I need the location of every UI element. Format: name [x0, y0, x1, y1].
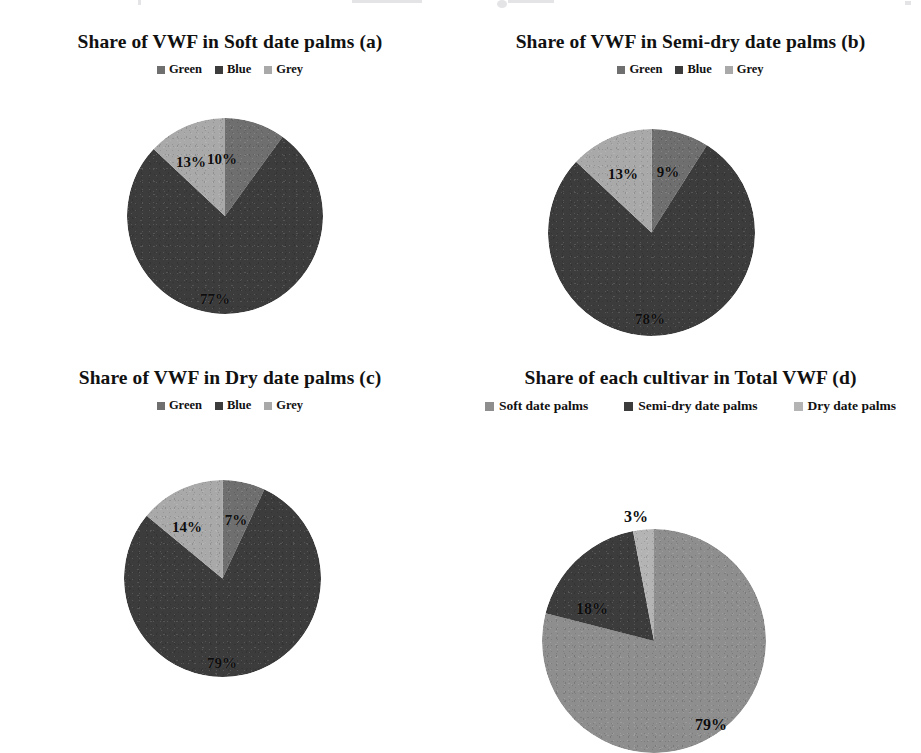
chart-title-a: Share of VWF in Soft date palms (a): [0, 32, 460, 52]
legend-label-blue: Blue: [687, 63, 711, 76]
legend-item-blue-c[interactable]: Blue: [215, 399, 251, 412]
legend-swatch-semi-dry-date-palms-icon: [624, 402, 633, 411]
chart-title-c: Share of VWF in Dry date palms (c): [0, 368, 460, 388]
chart-legend-d: Soft date palms Semi-dry date palms Dry …: [460, 399, 921, 413]
legend-label-grey: Grey: [276, 63, 303, 76]
pie-chart-d[interactable]: [542, 529, 766, 753]
legend-item-green-c[interactable]: Green: [157, 399, 202, 412]
legend-label-semi-dry-date-palms: Semi-dry date palms: [638, 399, 757, 413]
legend-label-green: Green: [629, 63, 662, 76]
pie-svg-d: [542, 529, 766, 753]
legend-item-grey-b[interactable]: Grey: [725, 63, 764, 76]
pie-label-green-b: 9%: [657, 163, 680, 180]
legend-swatch-green-icon: [157, 66, 165, 74]
pie-chart-b[interactable]: [548, 129, 755, 336]
chart-panel-c: Share of VWF in Dry date palms (c) Green…: [0, 362, 460, 729]
chart-title-d: Share of each cultivar in Total VWF (d): [460, 368, 921, 388]
legend-label-blue: Blue: [227, 63, 251, 76]
legend-item-grey-a[interactable]: Grey: [264, 63, 303, 76]
pie-label-blue-a: 77%: [200, 290, 230, 307]
pie-label-grey-a: 13%: [176, 153, 206, 170]
pie-label-green-c: 7%: [225, 511, 248, 528]
pie-label-semi-dry-d: 18%: [576, 600, 608, 618]
legend-swatch-blue-icon: [675, 66, 683, 74]
pie-label-green-a: 10%: [207, 150, 237, 167]
pie-chart-a[interactable]: [127, 118, 323, 314]
legend-label-green: Green: [169, 63, 202, 76]
pie-label-grey-b: 13%: [608, 165, 638, 182]
legend-swatch-grey-icon: [264, 66, 272, 74]
legend-swatch-green-icon: [157, 402, 165, 410]
pie-svg-b: [548, 129, 755, 336]
legend-item-green-b[interactable]: Green: [617, 63, 662, 76]
chart-title-b: Share of VWF in Semi-dry date palms (b): [460, 32, 921, 52]
chart-panel-a: Share of VWF in Soft date palms (a) Gree…: [0, 24, 460, 364]
pie-label-blue-c: 79%: [207, 654, 237, 671]
legend-swatch-blue-icon: [215, 66, 223, 74]
pie-label-grey-c: 14%: [172, 518, 202, 535]
legend-label-grey: Grey: [276, 399, 303, 412]
chart-legend-c: Green Blue Grey: [0, 399, 460, 412]
legend-item-soft-date-palms[interactable]: Soft date palms: [485, 399, 588, 413]
pie-label-blue-b: 78%: [635, 310, 665, 327]
legend-swatch-blue-icon: [215, 402, 223, 410]
pie-chart-c[interactable]: [124, 480, 321, 677]
pie-label-soft-d: 79%: [695, 716, 727, 734]
legend-swatch-dry-date-palms-icon: [794, 402, 803, 411]
chart-legend-b: Green Blue Grey: [460, 63, 921, 76]
legend-swatch-green-icon: [617, 66, 625, 74]
legend-label-grey: Grey: [737, 63, 764, 76]
pie-label-dry-d: 3%: [624, 508, 648, 526]
legend-swatch-grey-icon: [725, 66, 733, 74]
legend-swatch-soft-date-palms-icon: [485, 402, 494, 411]
legend-swatch-grey-icon: [264, 402, 272, 410]
legend-item-green-a[interactable]: Green: [157, 63, 202, 76]
legend-item-grey-c[interactable]: Grey: [264, 399, 303, 412]
chart-panel-d: Share of each cultivar in Total VWF (d) …: [460, 362, 921, 729]
legend-label-blue: Blue: [227, 399, 251, 412]
chart-legend-a: Green Blue Grey: [0, 63, 460, 76]
legend-label-soft-date-palms: Soft date palms: [499, 399, 588, 413]
pie-svg-a: [127, 118, 323, 314]
legend-item-semi-dry-date-palms[interactable]: Semi-dry date palms: [624, 399, 757, 413]
legend-label-green: Green: [169, 399, 202, 412]
pie-svg-c: [124, 480, 321, 677]
legend-item-blue-b[interactable]: Blue: [675, 63, 711, 76]
legend-label-dry-date-palms: Dry date palms: [808, 399, 897, 413]
legend-item-blue-a[interactable]: Blue: [215, 63, 251, 76]
chart-panel-b: Share of VWF in Semi-dry date palms (b) …: [460, 24, 921, 364]
legend-item-dry-date-palms[interactable]: Dry date palms: [794, 399, 897, 413]
